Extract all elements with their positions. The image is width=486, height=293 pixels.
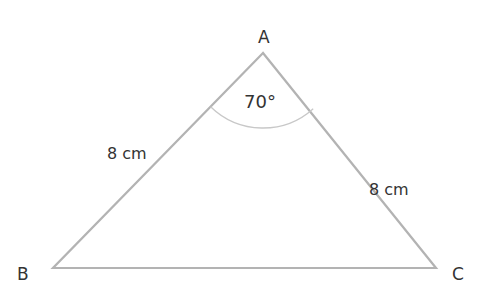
triangle-diagram: A B C 70° 8 cm 8 cm <box>0 0 486 293</box>
side-label-ab: 8 cm <box>107 144 147 163</box>
vertex-label-c: C <box>452 264 464 284</box>
vertex-label-a: A <box>258 27 270 47</box>
vertex-label-b: B <box>17 264 29 284</box>
angle-label-a: 70° <box>244 91 276 112</box>
side-label-ac: 8 cm <box>369 180 409 199</box>
